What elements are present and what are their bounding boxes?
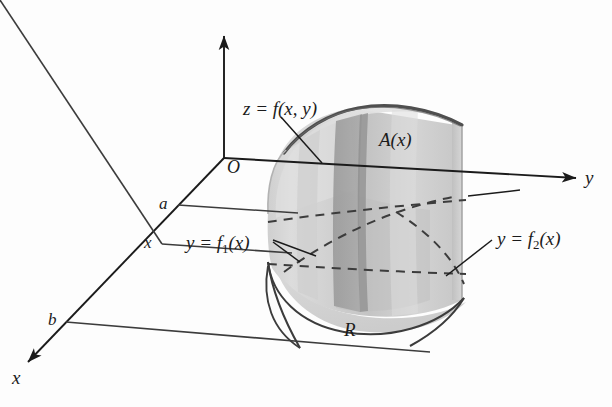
solid-body-group [268,105,466,333]
label-region-R: R [344,320,356,339]
line-at-b [66,322,330,344]
line-at-x [0,0,162,244]
label-curve-f2-head: y = f [497,228,533,249]
label-curve-f2: y = f2(x) [497,229,561,252]
label-origin: O [227,158,240,176]
figure-canvas: z = f(x, y) A(x) O y x a x b y = f1(x) y… [0,0,612,407]
label-point-b: b [48,311,57,328]
line-at-b-extension [330,344,430,352]
solid-diagram-svg [0,0,612,407]
label-y-axis: y [585,168,593,187]
leader-y-axis-pointer [468,190,520,196]
label-curve-f1-tail: (x) [229,232,250,253]
label-curve-f1-head: y = f [186,232,222,253]
label-curve-f1: y = f1(x) [186,233,250,256]
label-point-x: x [144,234,152,251]
label-x-axis: x [12,368,20,387]
label-cross-section-area: A(x) [379,130,412,149]
label-curve-f2-tail: (x) [540,228,561,249]
label-point-a: a [159,195,168,212]
label-surface-equation: z = f(x, y) [243,99,317,118]
